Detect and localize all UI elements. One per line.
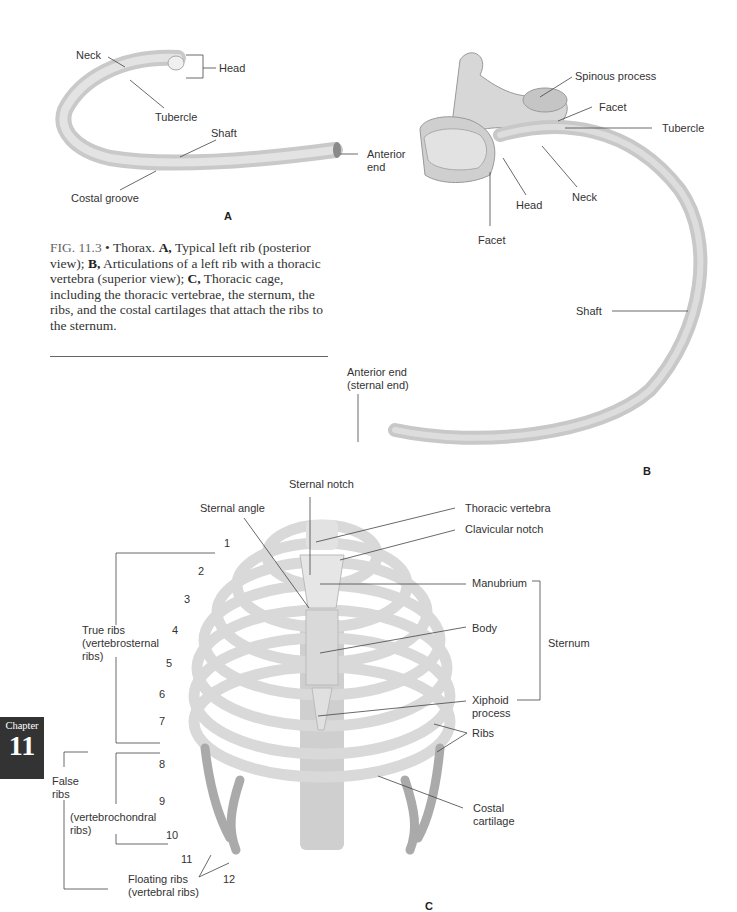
- rib-number-3: 3: [184, 593, 190, 606]
- rib-number-5: 5: [166, 657, 172, 670]
- label-b-tubercle: Tubercle: [662, 122, 704, 135]
- label-b-facet-top: Facet: [599, 101, 627, 114]
- label-c-clavicular-notch: Clavicular notch: [465, 523, 543, 536]
- panel-c-letter: C: [425, 900, 433, 912]
- label-c-sternal-notch: Sternal notch: [289, 478, 354, 491]
- label-b-shaft: Shaft: [576, 305, 602, 318]
- label-b-anterior-end: Anterior end(sternal end): [347, 366, 409, 392]
- panel-c-thoracic-cage-drawing: [194, 520, 450, 850]
- label-c-xiphoid-process: Xiphoidprocess: [472, 694, 511, 720]
- label-b-head: Head: [516, 199, 542, 212]
- rib-number-10: 10: [166, 829, 178, 842]
- label-c-thoracic-vertebra: Thoracic vertebra: [465, 502, 551, 515]
- label-b-spinous-process: Spinous process: [575, 70, 656, 83]
- anatomy-illustration: [0, 0, 737, 912]
- rib-number-9: 9: [159, 795, 165, 808]
- rib-number-4: 4: [172, 624, 178, 637]
- rib-number-6: 6: [159, 688, 165, 701]
- label-c-sternum: Sternum: [548, 637, 590, 650]
- label-c-costal-cartilage: Costalcartilage: [473, 802, 515, 828]
- panel-b-letter: B: [643, 465, 651, 477]
- label-c-vertebrochondral-ribs: (vertebrochondralribs): [70, 811, 156, 837]
- figure-number: FIG. 11.3: [50, 240, 102, 255]
- label-c-manubrium: Manubrium: [472, 577, 527, 590]
- label-a-costal-groove: Costal groove: [71, 192, 139, 205]
- rib-number-2: 2: [198, 565, 204, 578]
- chapter-tab-word: Chapter: [0, 717, 44, 731]
- label-a-head: Head: [219, 62, 245, 75]
- label-a-neck: Neck: [76, 49, 101, 62]
- rib-number-1: 1: [224, 537, 230, 550]
- panel-a-letter: A: [224, 210, 232, 222]
- label-c-ribs: Ribs: [472, 727, 494, 740]
- label-c-true-ribs: True ribs(vertebrosternalribs): [82, 624, 159, 663]
- chapter-tab: Chapter 11: [0, 717, 44, 779]
- rib-number-11: 11: [181, 853, 192, 866]
- label-a-tubercle: Tubercle: [155, 111, 197, 124]
- label-a-shaft: Shaft: [211, 127, 237, 140]
- label-c-body: Body: [472, 622, 497, 635]
- rib-number-8: 8: [159, 758, 165, 771]
- label-b-facet-bottom: Facet: [478, 234, 506, 247]
- panel-b-vertebra-drawing: [420, 53, 567, 183]
- label-b-neck: Neck: [572, 191, 597, 204]
- figure-caption: FIG. 11.3 • Thorax. A, Typical left rib …: [50, 240, 330, 333]
- chapter-tab-number: 11: [0, 731, 44, 761]
- caption-divider: [50, 356, 328, 357]
- label-a-anterior-end: Anteriorend: [367, 148, 406, 174]
- rib-number-7: 7: [159, 715, 165, 728]
- label-c-sternal-angle: Sternal angle: [200, 502, 265, 515]
- label-c-floating-ribs: Floating ribs(vertebral ribs): [128, 873, 199, 899]
- label-c-false-ribs: Falseribs: [52, 775, 79, 801]
- rib-number-12: 12: [223, 873, 235, 886]
